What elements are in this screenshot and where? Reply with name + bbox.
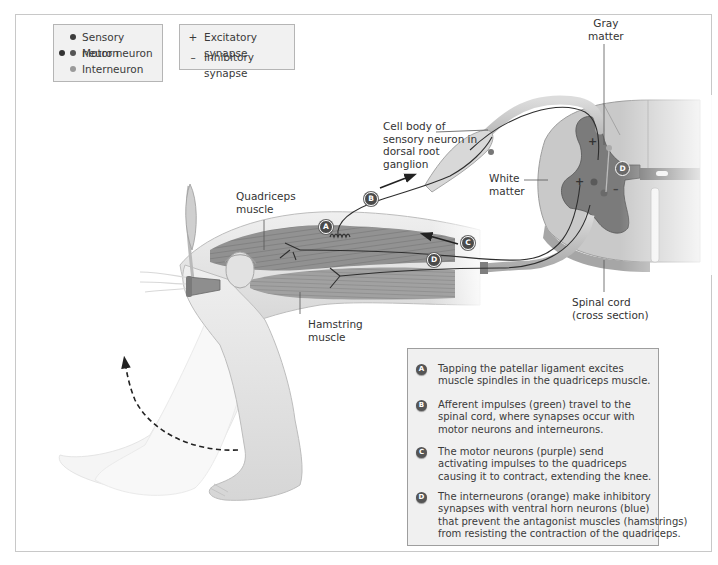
motor-dot-icon (59, 50, 65, 56)
steps-box: A Tapping the patellar ligament excites … (407, 348, 659, 546)
badge-c: C (461, 236, 475, 250)
legend-label: Inhibitory synapse (204, 49, 294, 81)
legend-item-motor: Motor neuron (54, 45, 162, 61)
badge-d-spinal: D (615, 161, 630, 176)
legend-item-interneuron: Interneuron (54, 61, 162, 77)
interneuron-dot-icon (70, 66, 76, 72)
motor-dot-icon (70, 50, 76, 56)
synapse-legend: + Excitatory synapse – Inhibitory synaps… (179, 24, 295, 70)
reflex-hammer (140, 184, 220, 297)
step-text: The motor neurons (purple) send activati… (438, 446, 660, 483)
excitatory-synapse-mark: + (575, 176, 584, 189)
badge-b: B (364, 192, 378, 206)
badge-d: D (427, 253, 441, 267)
sensory-cell-body (488, 149, 494, 155)
sensory-dot-icon (70, 34, 76, 40)
legend-label: Interneuron (82, 61, 143, 77)
legend-item-sensory: Sensory neuron (54, 29, 162, 45)
step-text: Tapping the patellar ligament excites mu… (438, 363, 660, 388)
step-text: Afferent impulses (green) travel to the … (438, 399, 660, 436)
step-badge: B (416, 400, 427, 411)
inhibitory-synapse-mark: – (613, 184, 619, 197)
label-hamstring: Hamstring muscle (308, 318, 363, 343)
label-gray-matter: Gray matter (588, 17, 624, 42)
legend-item-inhibitory: – Inhibitory synapse (180, 49, 294, 65)
afferent-arrow (380, 176, 411, 188)
motor-neuron-body-1 (591, 179, 598, 186)
label-white-matter: White matter (489, 172, 525, 197)
label-spinal-cord: Spinal cord (cross section) (572, 296, 649, 321)
neuron-legend: Sensory neuron Motor neuron Interneuron (53, 24, 163, 82)
badge-a: A (319, 220, 333, 234)
step-text: The interneurons (orange) make inhibitor… (438, 491, 660, 540)
legend-label: Motor neuron (82, 45, 153, 61)
label-cell-body: Cell body of sensory neuron in dorsal ro… (383, 120, 477, 170)
legend-item-excitatory: + Excitatory synapse (180, 29, 294, 45)
step-badge: D (416, 492, 427, 503)
plus-icon: + (188, 29, 198, 45)
step-badge: A (416, 364, 427, 375)
minus-icon: – (188, 49, 198, 65)
label-quadriceps: Quadriceps muscle (236, 190, 296, 215)
step-badge: C (416, 447, 427, 458)
excitatory-synapse-mark: + (588, 136, 597, 149)
